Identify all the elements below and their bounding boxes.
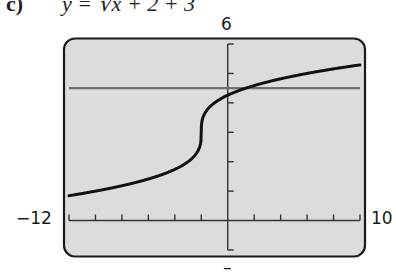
ymax-label: 6 — [221, 16, 232, 33]
xmax-label: 10 — [371, 210, 393, 227]
xmin-label: −12 — [16, 210, 52, 227]
ymin-label: – — [223, 259, 232, 274]
